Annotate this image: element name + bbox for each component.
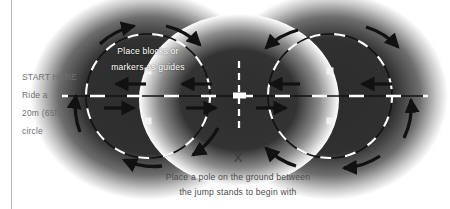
circle-size-label: 20m (65ft) [22, 113, 63, 114]
caption-line-2: the jump stands to begin with [88, 187, 388, 197]
block-marker-left-bottom [145, 118, 152, 125]
x-spot-marker: X [228, 150, 248, 165]
start-here-label: START HERE [22, 77, 77, 78]
inside-circle-line-1: Place blocks or [78, 46, 218, 56]
caption-line-1: Place a pole on the ground between [88, 172, 388, 182]
inside-circle-line-2: markers as guides [78, 62, 218, 72]
block-marker-right-bottom [327, 118, 334, 125]
pole-marker [233, 93, 246, 99]
circle-word-label: circle [22, 131, 43, 132]
diagram-canvas: START HERE Ride a 20m (65ft) circle Plac… [0, 0, 450, 209]
block-marker-right-top [327, 68, 334, 75]
ride-a-label: Ride a [22, 95, 48, 96]
